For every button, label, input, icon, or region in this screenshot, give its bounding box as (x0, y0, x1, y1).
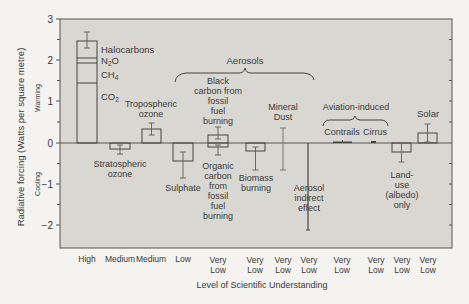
label-sulphate: Sulphate (165, 183, 201, 193)
svg-text:only: only (394, 200, 411, 210)
cooling-label: Cooling (34, 172, 42, 196)
svg-text:fuel: fuel (211, 106, 226, 116)
svg-text:ozone: ozone (108, 169, 133, 179)
svg-text:Low: Low (394, 265, 410, 275)
svg-text:fossil: fossil (208, 191, 229, 201)
svg-text:High: High (78, 254, 96, 264)
svg-text:Stratospheric: Stratospheric (93, 159, 147, 169)
svg-text:Very: Very (419, 255, 437, 265)
svg-text:Low: Low (275, 265, 291, 275)
tick-label: 0 (47, 138, 53, 149)
svg-text:Medium: Medium (105, 254, 135, 264)
svg-text:fuel: fuel (211, 201, 226, 211)
label-aviation-induced: Aviation-induced (323, 102, 389, 112)
tick-label: 1 (47, 96, 53, 107)
svg-text:Black: Black (207, 76, 230, 86)
svg-text:Dust: Dust (274, 112, 293, 122)
svg-text:carbon: carbon (204, 171, 232, 181)
tick-label: 2 (47, 55, 53, 66)
y-axis-label: Radiative forcing (Watts per square metr… (15, 48, 26, 227)
label-halocarbons: Halocarbons (101, 44, 155, 55)
svg-text:Very: Very (274, 255, 292, 265)
svg-text:fossil: fossil (208, 96, 229, 106)
x-axis-label: Level of Scientific Understanding (196, 280, 327, 290)
svg-text:Aerosol: Aerosol (294, 183, 325, 193)
lou-labels: High Medium Medium Low Very Low Very Low… (78, 254, 437, 275)
svg-text:Low: Low (247, 265, 263, 275)
svg-text:Low: Low (420, 265, 436, 275)
svg-text:Low: Low (301, 265, 317, 275)
radiative-forcing-chart: 3 2 1 0 −1 −2 Radiative forcing (Watts p… (0, 0, 469, 304)
svg-text:Land-: Land- (390, 170, 413, 180)
svg-text:Very: Very (209, 255, 227, 265)
tick-label: −1 (42, 179, 54, 190)
svg-text:effect: effect (298, 203, 320, 213)
label-aerosol-indirect-effect: Aerosol indirect effect (294, 183, 325, 213)
label-contrails: Contrails (324, 127, 360, 137)
label-aerosols: Aerosols (227, 55, 264, 66)
label-solar: Solar (417, 108, 439, 119)
y-tick-labels: 3 2 1 0 −1 −2 (42, 14, 54, 231)
svg-text:Mineral: Mineral (268, 102, 298, 112)
svg-text:Low: Low (210, 265, 226, 275)
svg-text:Very: Very (367, 255, 385, 265)
svg-text:Organic: Organic (202, 161, 234, 171)
svg-text:(albedo): (albedo) (385, 190, 418, 200)
svg-text:Very: Very (246, 255, 264, 265)
warming-label: Warming (34, 84, 42, 112)
svg-text:indirect: indirect (294, 193, 324, 203)
tick-label: −2 (42, 220, 54, 231)
y-axis-ticks (56, 19, 60, 225)
svg-text:Very: Very (333, 255, 351, 265)
svg-text:burning: burning (203, 211, 233, 221)
svg-text:Low: Low (368, 265, 384, 275)
bar-cirrus (371, 141, 376, 143)
svg-text:Tropospheric: Tropospheric (125, 99, 178, 109)
svg-text:from: from (209, 181, 227, 191)
label-cirrus: Cirrus (363, 127, 387, 137)
svg-text:Biomass: Biomass (239, 173, 274, 183)
svg-text:carbon from: carbon from (194, 86, 242, 96)
svg-text:Very: Very (393, 255, 411, 265)
svg-text:Low: Low (175, 254, 191, 264)
tick-label: 3 (47, 14, 53, 25)
svg-text:Medium: Medium (136, 254, 166, 264)
svg-text:burning: burning (241, 183, 271, 193)
svg-text:ozone: ozone (139, 109, 164, 119)
svg-text:Low: Low (334, 265, 350, 275)
svg-text:burning: burning (203, 116, 233, 126)
label-biomass-burning: Biomass burning (239, 173, 274, 193)
svg-text:Very: Very (300, 255, 318, 265)
svg-text:use: use (395, 180, 410, 190)
